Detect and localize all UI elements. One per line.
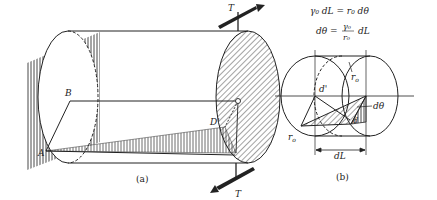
equation-2-lhs: dθ =: [316, 26, 338, 36]
torque-arrow-bottom: T: [210, 163, 255, 199]
label-T-bottom: T: [235, 189, 242, 199]
label-r0-bottom: ro: [288, 132, 296, 143]
figure-a: T T B A D' (a): [27, 3, 280, 199]
label-A: A: [37, 148, 45, 158]
label-D-prime: D': [209, 117, 220, 127]
label-d-prime: d': [319, 84, 327, 94]
equations: γ₀ dL = r₀ dθ dθ = γ₀ r₀ dL: [310, 6, 370, 42]
caption-a: (a): [136, 174, 148, 184]
equation-2-denominator: r₀: [343, 33, 351, 42]
label-dtheta: dθ: [373, 101, 385, 111]
label-T-top: T: [228, 3, 235, 13]
equation-2-rhs: dL: [358, 26, 370, 36]
label-dL: dL: [334, 151, 346, 161]
torque-arrow-top: T: [218, 3, 265, 31]
end-face: [216, 31, 280, 163]
torsion-diagram: T T B A D' (a): [0, 0, 437, 200]
label-r0-top: ro: [351, 72, 359, 83]
label-d: d: [353, 116, 358, 125]
caption-b: (b): [336, 172, 349, 182]
equation-1: γ₀ dL = r₀ dθ: [310, 6, 369, 16]
figure-b: ro d' dθ d ro dL (b): [275, 50, 414, 182]
equation-2-numerator: γ₀: [343, 22, 352, 31]
label-B: B: [64, 88, 72, 98]
